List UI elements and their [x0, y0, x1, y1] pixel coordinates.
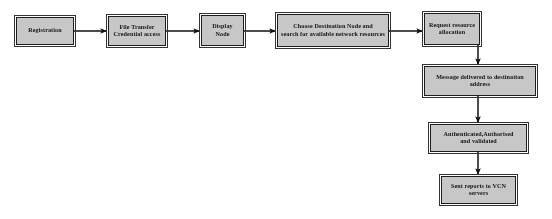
- node-choose-destination-node-label: Choose Destination Node and search for a…: [281, 23, 385, 38]
- node-display-node-label: Display Node: [212, 23, 232, 38]
- node-authenticated-authorised-validated[interactable]: Authenticated,Authorised and validated: [430, 124, 527, 152]
- node-message-delivered[interactable]: Message delivered to destination address: [424, 66, 536, 96]
- node-message-delivered-label: Message delivered to destination address: [436, 74, 524, 89]
- node-request-resource-allocation-label: Request resource allocation: [429, 22, 475, 37]
- node-file-transfer-credential-access[interactable]: File Transfer Credential access: [108, 16, 166, 46]
- node-choose-destination-node[interactable]: Choose Destination Node and search for a…: [277, 14, 389, 47]
- node-sent-reports-vcn-servers[interactable]: Sent reports to VCN servers: [441, 176, 516, 204]
- node-file-transfer-credential-access-label: File Transfer Credential access: [114, 24, 161, 39]
- node-display-node[interactable]: Display Node: [201, 15, 244, 46]
- flowchart-canvas: Registration File Transfer Credential ac…: [0, 0, 552, 219]
- node-sent-reports-vcn-servers-label: Sent reports to VCN servers: [451, 183, 506, 198]
- node-registration[interactable]: Registration: [16, 17, 74, 45]
- node-authenticated-authorised-validated-label: Authenticated,Authorised and validated: [444, 131, 514, 146]
- node-registration-label: Registration: [28, 27, 61, 34]
- node-request-resource-allocation[interactable]: Request resource allocation: [424, 13, 480, 45]
